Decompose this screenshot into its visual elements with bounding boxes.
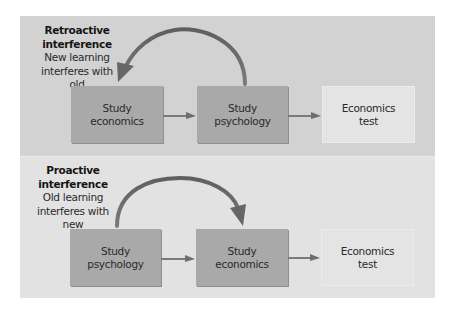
retroactive-arrow-1-icon [163,112,196,119]
proactive-curved-arrow-icon [117,178,246,226]
arrows-overlay [0,0,464,312]
proactive-arrow-2-icon [288,254,320,261]
proactive-arrow-1-icon [161,255,195,262]
retroactive-curved-arrow-icon [117,29,245,84]
retroactive-arrow-2-icon [288,112,321,119]
